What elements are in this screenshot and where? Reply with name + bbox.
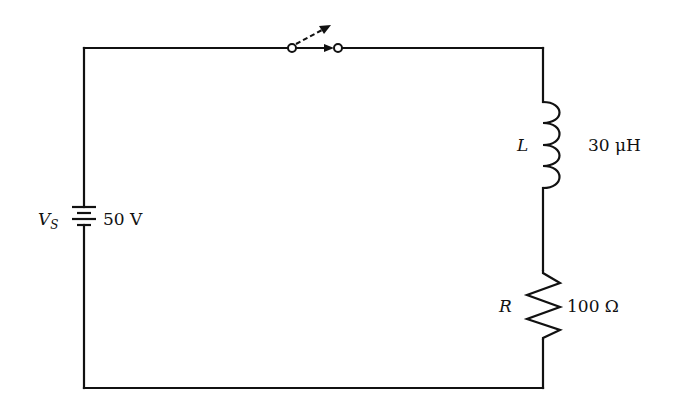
switch-symbol [288,25,342,52]
resistor-value: 100 Ω [567,298,619,315]
resistor-label: R [499,298,512,315]
inductor-value: 30 μH [588,137,641,154]
battery-symbol [72,207,96,225]
source-value: 50 V [103,211,142,228]
resistor-symbol [527,270,560,340]
inductor-label: L [517,137,528,154]
source-label: VS [38,211,59,231]
circuit-diagram [0,0,678,411]
inductor-symbol [543,102,560,188]
